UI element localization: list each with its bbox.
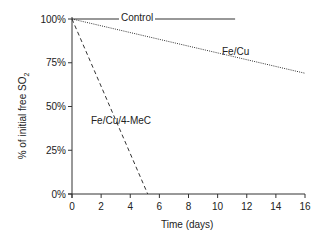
series-lines: [72, 19, 305, 194]
svg-text:8: 8: [186, 201, 192, 212]
svg-text:4: 4: [127, 201, 133, 212]
svg-text:0: 0: [69, 201, 75, 212]
line-chart: 02468101214160%25%50%75%100%: [0, 0, 327, 243]
svg-text:6: 6: [157, 201, 163, 212]
series-line-fe-cu: [72, 19, 305, 73]
svg-text:12: 12: [241, 201, 253, 212]
series-line-fe-cu-4-mec: [72, 19, 148, 194]
svg-text:14: 14: [270, 201, 282, 212]
svg-text:100%: 100%: [40, 14, 66, 25]
svg-text:0%: 0%: [52, 189, 67, 200]
svg-text:2: 2: [98, 201, 104, 212]
series-label-fecu: Fe/Cu: [222, 47, 249, 57]
axes: [68, 17, 305, 198]
series-label-fecu4mec: Fe/Cu/4-MeC: [91, 116, 151, 126]
svg-text:16: 16: [299, 201, 311, 212]
y-axis-title-sub: 2: [23, 73, 30, 77]
series-label-control: Control: [119, 13, 155, 23]
y-axis-title-main: % of initial free SO: [17, 77, 28, 160]
svg-text:10: 10: [212, 201, 224, 212]
svg-text:50%: 50%: [46, 101, 66, 112]
x-axis-title: Time (days): [161, 220, 213, 230]
svg-text:75%: 75%: [46, 57, 66, 68]
y-axis-title: % of initial free SO2: [18, 66, 30, 166]
svg-text:25%: 25%: [46, 145, 66, 156]
